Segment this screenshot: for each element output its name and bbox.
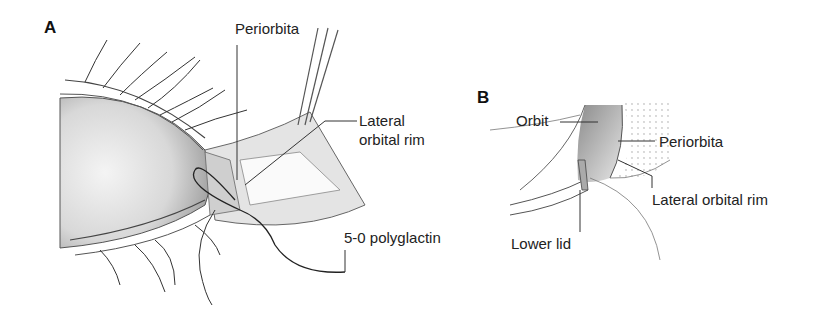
label-suture-polyglactin: 5-0 polyglactin <box>344 229 441 246</box>
label-lower-lid: Lower lid <box>511 235 571 252</box>
label-lateral-orbital-rim-b: Lateral orbital rim <box>652 191 768 208</box>
panel-a-letter: A <box>44 18 56 38</box>
panel-b-letter: B <box>477 88 489 108</box>
label-lateral-orbital-rim-a-line1: Lateral <box>359 112 405 129</box>
illustration-canvas <box>0 0 829 323</box>
label-lateral-orbital-rim-a-line2: orbital rim <box>359 131 425 148</box>
label-orbit: Orbit <box>516 112 549 129</box>
label-periorbita-b: Periorbita <box>659 133 723 150</box>
panel-a-drawing <box>60 28 365 305</box>
label-periorbita-a: Periorbita <box>235 20 299 37</box>
